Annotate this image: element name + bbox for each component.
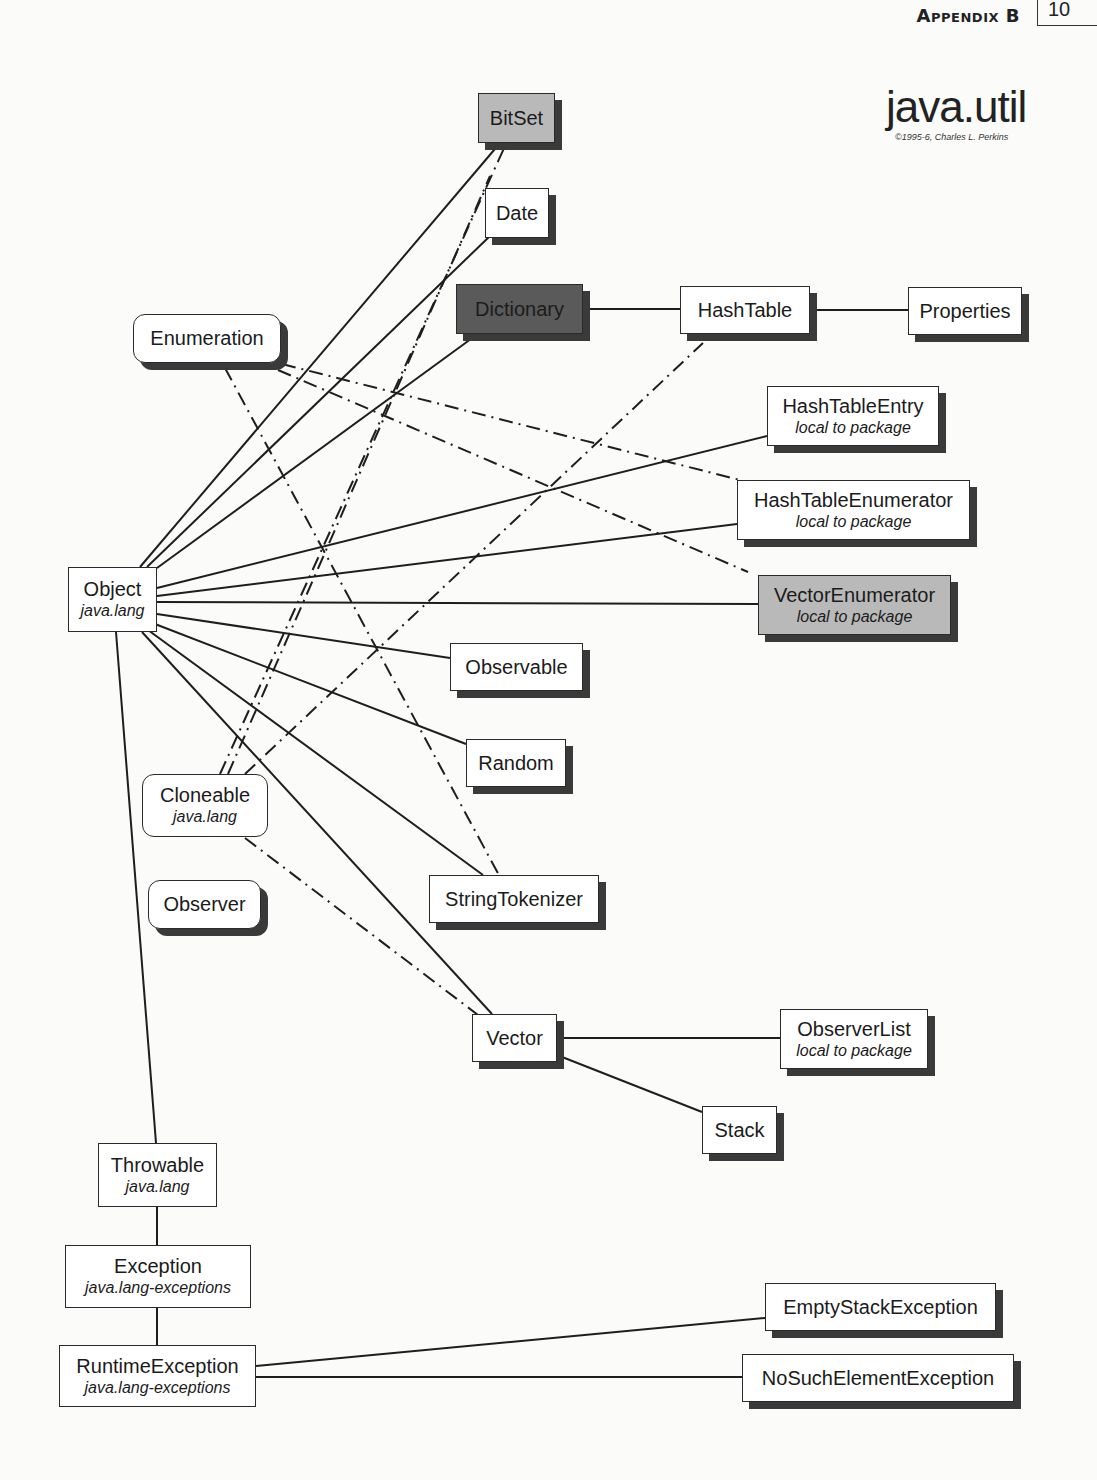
class-vector: Vector	[472, 1014, 557, 1062]
class-exception: Exception java.lang-exceptions	[65, 1245, 251, 1308]
class-vectorenumerator: VectorEnumerator local to package	[758, 575, 951, 635]
class-name: Throwable	[111, 1154, 204, 1177]
class-package: java.lang-exceptions	[85, 1378, 231, 1398]
class-nosuchelementexception: NoSuchElementException	[742, 1354, 1014, 1402]
interface-observer: Observer	[148, 880, 261, 929]
interface-package: java.lang	[173, 807, 237, 827]
page-number: 10	[1037, 0, 1097, 26]
interface-cloneable: Cloneable java.lang	[142, 774, 268, 837]
edge-object-hashtableenumerator	[157, 524, 737, 596]
class-observable: Observable	[450, 643, 583, 691]
edge-vector-stack	[557, 1055, 702, 1112]
class-name: VectorEnumerator	[774, 584, 935, 607]
class-name: StringTokenizer	[445, 888, 583, 911]
class-package: local to package	[796, 512, 912, 532]
edge-object-dictionary	[157, 336, 475, 568]
edge-object-stringtokenizer	[148, 630, 483, 875]
class-name: HashTable	[698, 299, 793, 322]
class-name: BitSet	[490, 107, 543, 130]
class-throwable: Throwable java.lang	[98, 1143, 217, 1207]
class-name: ObserverList	[797, 1018, 910, 1041]
class-package: java.lang	[80, 601, 144, 621]
class-object: Object java.lang	[68, 567, 157, 632]
class-name: Date	[496, 202, 538, 225]
class-name: Object	[84, 578, 142, 601]
edge-object-observable	[157, 614, 450, 658]
class-package: local to package	[797, 607, 913, 627]
class-properties: Properties	[908, 287, 1022, 335]
class-package: java.lang-exceptions	[85, 1278, 231, 1298]
class-stack: Stack	[702, 1106, 777, 1154]
class-name: HashTableEntry	[782, 395, 923, 418]
class-package: java.lang	[125, 1177, 189, 1197]
class-observerlist: ObserverList local to package	[780, 1009, 928, 1069]
interface-name: Cloneable	[160, 784, 250, 807]
copyright-notice: ©1995-6, Charles L. Perkins	[895, 132, 1008, 142]
class-name: NoSuchElementException	[762, 1367, 994, 1390]
class-name: Properties	[919, 300, 1010, 323]
class-name: Vector	[486, 1027, 543, 1050]
edge-runtime-emptystack	[256, 1318, 765, 1366]
edge-cloneable-hashtable	[245, 343, 703, 774]
class-package: local to package	[796, 1041, 912, 1061]
interface-name: Enumeration	[150, 327, 263, 350]
class-hashtable: HashTable	[680, 286, 810, 334]
interface-enumeration: Enumeration	[133, 314, 281, 363]
class-emptystackexception: EmptyStackException	[765, 1283, 996, 1331]
class-stringtokenizer: StringTokenizer	[429, 875, 599, 923]
class-name: EmptyStackException	[783, 1296, 978, 1319]
edge-enumeration-vectorenumerator	[278, 370, 748, 572]
class-name: Dictionary	[475, 298, 564, 321]
class-hashtableentry: HashTableEntry local to package	[767, 386, 939, 446]
class-runtimeexception: RuntimeException java.lang-exceptions	[59, 1345, 256, 1407]
class-name: Stack	[714, 1119, 764, 1142]
class-name: Observable	[465, 656, 567, 679]
class-name: RuntimeException	[76, 1355, 238, 1378]
class-package: local to package	[795, 418, 911, 438]
edge-enumeration-hashtableenumerator	[282, 364, 740, 480]
interface-name: Observer	[163, 893, 245, 916]
edge-object-random	[155, 624, 466, 744]
class-bitset: BitSet	[478, 93, 555, 143]
edge-object-hashtableentry	[157, 436, 767, 588]
class-name: Random	[478, 752, 554, 775]
section-label: Appendix B	[917, 5, 1020, 26]
class-date: Date	[485, 188, 549, 238]
class-name: Exception	[114, 1255, 202, 1278]
package-title: java.util	[886, 85, 1026, 129]
edge-cloneable-vector	[245, 838, 478, 1015]
class-random: Random	[466, 739, 566, 787]
class-dictionary: Dictionary	[456, 284, 583, 334]
class-name: HashTableEnumerator	[754, 489, 953, 512]
edge-object-vectorenumerator	[157, 602, 758, 604]
class-hashtableenumerator: HashTableEnumerator local to package	[737, 480, 970, 540]
